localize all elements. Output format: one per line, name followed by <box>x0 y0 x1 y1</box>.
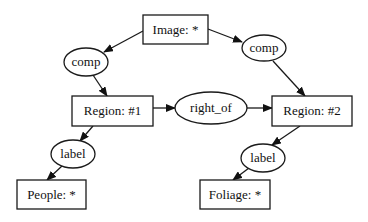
node-comp-left-label: comp <box>72 54 101 69</box>
node-people: People: * <box>17 180 86 209</box>
node-right-of: right_of <box>175 92 247 124</box>
edge-comp-right-to-region2 <box>273 61 305 96</box>
edge-label-right-to-foliage <box>233 168 249 180</box>
node-region1: Region: #1 <box>72 96 153 126</box>
edge-comp-left-to-region1 <box>93 75 107 96</box>
edge-region2-to-label-right <box>272 126 300 145</box>
node-comp-left: comp <box>64 48 108 76</box>
edge-label-left-to-people <box>47 166 62 180</box>
node-region1-label: Region: #1 <box>84 103 141 118</box>
node-foliage-label: Foliage: * <box>209 187 261 202</box>
node-people-label: People: * <box>27 187 76 202</box>
node-foliage: Foliage: * <box>200 180 270 209</box>
node-label-left: label <box>51 140 95 168</box>
node-region2-label: Region: #2 <box>283 103 340 118</box>
node-image-label: Image: * <box>153 22 199 37</box>
node-comp-right-label: comp <box>250 40 279 55</box>
node-label-right-label: label <box>250 150 276 165</box>
semantic-graph-diagram: Image: * comp comp Region: #1 right_of R… <box>0 0 368 222</box>
edge-image-to-comp-right <box>208 29 242 42</box>
node-label-left-label: label <box>60 146 86 161</box>
node-region2: Region: #2 <box>272 96 352 126</box>
node-right-of-label: right_of <box>190 100 233 115</box>
edge-image-to-comp-left <box>104 31 143 52</box>
node-comp-right: comp <box>242 35 286 61</box>
node-label-right: label <box>241 144 285 172</box>
node-image: Image: * <box>143 15 208 44</box>
edge-region1-to-label-left <box>80 126 93 141</box>
